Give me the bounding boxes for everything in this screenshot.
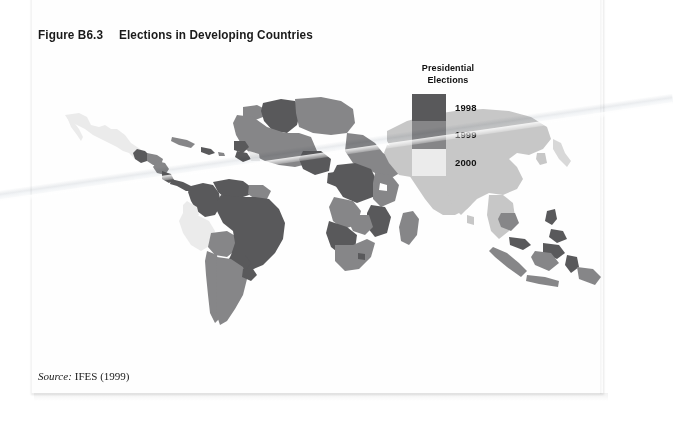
- region-guyanas: [248, 185, 271, 199]
- region-madagascar: [399, 211, 419, 245]
- source-label: Source:: [38, 370, 72, 382]
- legend-title-line1: Presidential: [406, 62, 490, 74]
- legend-label-1998: 1998: [455, 94, 503, 121]
- legend-labels: 1998 1999 2000: [455, 94, 503, 176]
- source-note: Source:IFES (1999): [38, 370, 130, 382]
- legend-label-1999: 1999: [455, 121, 503, 148]
- legend-swatch-1998: [412, 94, 446, 121]
- region-libya-egypt: [295, 97, 355, 135]
- region-nigeria: [299, 151, 331, 175]
- legend-label-2000: 2000: [455, 149, 503, 176]
- region-sri-lanka: [467, 215, 474, 225]
- world-map: [31, 55, 602, 360]
- source-text: IFES (1999): [75, 370, 130, 382]
- region-cuba: [171, 137, 195, 148]
- page-title: Figure B6.3Elections in Developing Count…: [38, 28, 313, 42]
- region-java: [526, 275, 559, 287]
- region-philippines: [545, 209, 557, 225]
- legend-title: Presidential Elections: [406, 62, 490, 85]
- world-map-svg: [31, 55, 602, 360]
- region-korea: [536, 153, 547, 165]
- legend-title-line2: Elections: [406, 74, 490, 86]
- figure-number: Figure B6.3: [38, 28, 103, 42]
- region-malaysia: [509, 237, 531, 250]
- region-hispaniola: [201, 147, 215, 155]
- figure-title-text: Elections in Developing Countries: [119, 28, 313, 42]
- region-guinea: [235, 151, 251, 162]
- region-lesotho: [358, 253, 365, 260]
- region-papua: [577, 267, 601, 285]
- legend-body: 1998 1999 2000: [404, 94, 504, 178]
- region-mexico: [65, 113, 145, 161]
- page-bottom-shadow: [34, 393, 608, 401]
- map-regions: [65, 97, 601, 325]
- region-argentina: [216, 257, 247, 325]
- region-japan: [553, 139, 571, 167]
- region-puerto-rico: [218, 152, 225, 156]
- legend-swatch-2000: [412, 149, 446, 176]
- region-sulawesi: [565, 255, 579, 273]
- region-sumatra: [489, 247, 527, 277]
- region-guatemala: [133, 149, 149, 163]
- legend-swatch-1999: [412, 121, 446, 148]
- map-legend: Presidential Elections 1998 1999 2000: [404, 62, 504, 178]
- region-drcongo: [333, 163, 377, 203]
- legend-swatches: [412, 94, 446, 176]
- region-philippines-south: [549, 229, 567, 243]
